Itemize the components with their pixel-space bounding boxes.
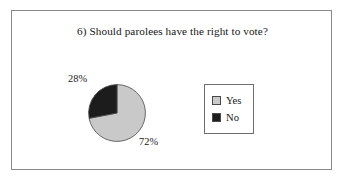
- legend-swatch-no-icon: [212, 113, 221, 122]
- chart-legend: Yes No: [204, 84, 254, 134]
- data-label-yes: 72%: [139, 136, 158, 148]
- legend-item-no: No: [212, 109, 253, 126]
- legend-label-yes: Yes: [226, 95, 241, 106]
- legend-swatch-yes-icon: [212, 96, 221, 105]
- pie-chart: [88, 84, 146, 142]
- pie-slice-no: [89, 85, 117, 119]
- pie-svg: [88, 84, 146, 142]
- chart-title: 6) Should parolees have the right to vot…: [0, 24, 345, 38]
- data-label-no: 28%: [68, 73, 87, 85]
- pie-chart-figure: 6) Should parolees have the right to vot…: [0, 0, 345, 183]
- legend-item-yes: Yes: [212, 92, 253, 109]
- legend-label-no: No: [226, 112, 239, 123]
